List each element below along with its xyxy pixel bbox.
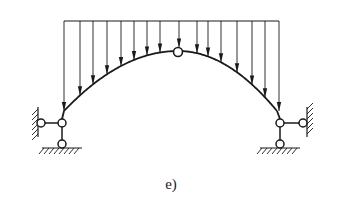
- ground-hinge-icon: [276, 140, 284, 148]
- ground-hatch: [287, 148, 292, 154]
- wall-hinge-icon: [299, 119, 307, 127]
- wall-hatch: [307, 103, 313, 109]
- ground-hinge-icon: [58, 140, 66, 148]
- arch-curve: [64, 51, 277, 111]
- wall-hatch: [307, 118, 313, 124]
- main-hinge-icon: [276, 119, 284, 127]
- three-hinged-arch-diagram: [0, 0, 342, 203]
- ground-hatch: [64, 148, 69, 154]
- ground-hatch: [277, 148, 282, 154]
- wall-hatch: [32, 129, 38, 135]
- wall-hatch: [307, 108, 313, 114]
- ground-hatch: [49, 148, 54, 154]
- ground-hatch: [282, 148, 287, 154]
- ground-hatch: [267, 148, 272, 154]
- load-arrowhead-icon: [158, 43, 162, 52]
- wall-hatch: [32, 109, 38, 115]
- ground-hatch: [59, 148, 64, 154]
- load-arrowhead-icon: [177, 39, 181, 48]
- ground-hatch: [69, 148, 74, 154]
- load-arrowhead-icon: [195, 44, 199, 53]
- ground-hatch: [257, 148, 262, 154]
- ground-hatch: [292, 148, 297, 154]
- ground-hatch: [54, 148, 59, 154]
- wall-hatch: [32, 134, 38, 140]
- figure-label: e): [0, 176, 342, 193]
- crown-hinge-icon: [174, 48, 183, 57]
- ground-hatch: [39, 148, 44, 154]
- wall-hatch: [307, 123, 313, 129]
- ground-hatch: [262, 148, 267, 154]
- ground-hatch: [74, 148, 79, 154]
- wall-hatch: [307, 113, 313, 119]
- arch-end-segment: [62, 111, 64, 119]
- wall-hatch: [307, 128, 313, 134]
- wall-hinge-icon: [37, 119, 45, 127]
- ground-hatch: [272, 148, 277, 154]
- main-hinge-icon: [58, 119, 66, 127]
- arch-end-segment: [277, 111, 280, 119]
- load-arrowhead-icon: [277, 102, 281, 111]
- ground-hatch: [44, 148, 49, 154]
- wall-hatch: [32, 114, 38, 120]
